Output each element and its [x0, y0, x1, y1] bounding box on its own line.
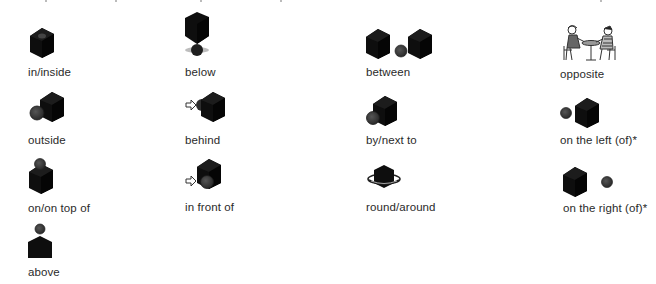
cube-ball-outside-icon [28, 92, 68, 126]
preposition-label: by/next to [366, 134, 417, 146]
cropped-top-marks [0, 0, 656, 3]
two-people-at-table-icon [560, 24, 620, 64]
preposition-label: outside [28, 134, 66, 146]
preposition-label: below [185, 66, 216, 78]
cube-ball-next-to-icon [366, 96, 406, 130]
preposition-label: on the left (of)* [560, 134, 637, 146]
cube-ball-between-icon [366, 29, 436, 61]
preposition-label: on/on top of [28, 202, 90, 214]
cube-ball-inside-icon [28, 28, 58, 60]
preposition-label: opposite [560, 68, 604, 80]
preposition-label: on the right (of)* [563, 202, 647, 214]
ball-left-of-cube-icon [560, 98, 605, 128]
arrow-right-icon [186, 100, 196, 110]
preposition-label: in/inside [28, 66, 71, 78]
preposition-label: in front of [185, 201, 234, 213]
preposition-label: between [366, 66, 410, 78]
ring-around-cube-icon [366, 164, 406, 194]
ball-above-cube-icon [28, 224, 58, 262]
ball-right-of-cube-icon [563, 167, 618, 197]
preposition-label: above [28, 266, 60, 278]
preposition-label: round/around [366, 201, 436, 213]
cube-ball-in-front-icon [185, 159, 233, 193]
cube-ball-below-icon [185, 12, 219, 58]
ball-on-top-of-cube-icon [28, 158, 58, 196]
arrow-right-icon [186, 176, 196, 186]
cube-ball-behind-icon [185, 92, 233, 126]
preposition-label: behind [185, 134, 220, 146]
